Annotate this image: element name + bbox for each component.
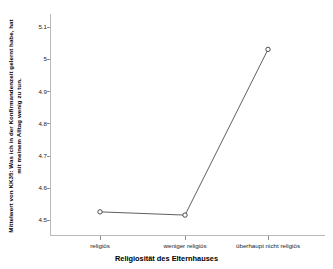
y-tick-label: 5 (27, 55, 47, 62)
data-point (98, 210, 102, 214)
data-point (266, 47, 270, 51)
y-tick-label: 4.9 (27, 88, 47, 95)
series-markers (98, 47, 270, 217)
x-tick-mark (185, 236, 186, 240)
plot-series-layer (50, 14, 325, 236)
y-tick-label: 4.8 (27, 120, 47, 127)
y-tick-label: 5.1 (27, 23, 47, 30)
x-axis-title: Religiosität des Elternhauses (0, 254, 333, 263)
x-tick-mark (268, 236, 269, 240)
data-point (183, 213, 187, 217)
x-tick-label: überhaupt nicht religiös (236, 242, 300, 249)
y-tick-label: 4.5 (27, 216, 47, 223)
line-chart: Mittelwert von KK35: Was ich in der Konf… (0, 0, 333, 269)
x-tick-label: weniger religiös (164, 242, 207, 249)
y-tick-label: 4.7 (27, 152, 47, 159)
x-tick-mark (100, 236, 101, 240)
series-line (100, 49, 268, 215)
x-tick-label: religiös (90, 242, 110, 249)
y-tick-label: 4.6 (27, 184, 47, 191)
y-axis-tick-labels: 4.5 4.6 4.7 4.8 4.9 5 5.1 (25, 0, 47, 269)
y-axis-title: Mittelwert von KK35: Was ich in der Konf… (7, 15, 27, 237)
